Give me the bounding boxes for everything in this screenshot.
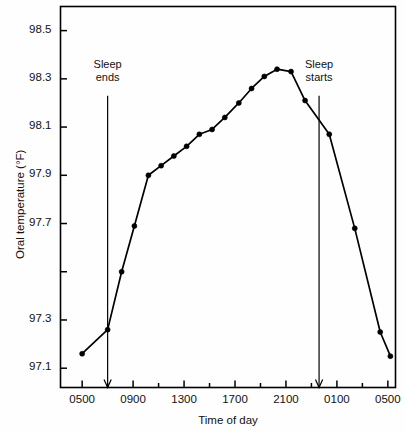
x-axis-tick-label: 0500 [362,393,406,405]
annotation-line-2: ends [68,71,148,84]
y-axis-title: Oral temperature (°F) [14,150,26,259]
y-axis-tick-label: 98.3 [29,71,51,83]
data-point [119,269,124,274]
data-point [249,86,254,91]
data-point [327,132,332,137]
data-point [171,154,176,159]
series-line-0 [82,69,390,356]
x-axis-tick-label: 1700 [209,393,261,405]
data-point [80,351,85,356]
annotation-sleep-starts: Sleepstarts [279,58,359,84]
y-axis-tick-label: 98.1 [29,119,51,131]
annotation-sleep-ends: Sleepends [68,58,148,84]
data-point [210,127,215,132]
x-axis-tick-label: 0500 [56,393,108,405]
annotation-line-1: Sleep [279,58,359,71]
data-point [159,163,164,168]
data-point [146,173,151,178]
annotation-line-1: Sleep [68,58,148,71]
data-point [303,98,308,103]
data-point [197,132,202,137]
data-point [352,226,357,231]
data-point [262,74,267,79]
data-point [388,354,393,359]
annotation-line-2: starts [279,71,359,84]
y-axis-tick-label: 97.9 [29,167,51,179]
y-axis-tick-label: 97.3 [29,312,51,324]
data-point [184,144,189,149]
x-axis-tick-label: 0900 [107,393,159,405]
y-axis-tick-label: 97.1 [29,360,51,372]
x-axis-title: Time of day [61,414,396,426]
y-axis-tick-label: 97.7 [29,216,51,228]
x-axis-tick-label: 2100 [260,393,312,405]
x-axis-tick-label: 0100 [311,393,363,405]
data-point [132,223,137,228]
data-point [378,330,383,335]
x-axis-tick-label: 1300 [158,393,210,405]
chart-figure: 98.598.398.197.997.797.397.1050009001300… [0,0,406,432]
data-point [236,100,241,105]
y-axis-tick-label: 98.5 [29,23,51,35]
data-point [222,115,227,120]
